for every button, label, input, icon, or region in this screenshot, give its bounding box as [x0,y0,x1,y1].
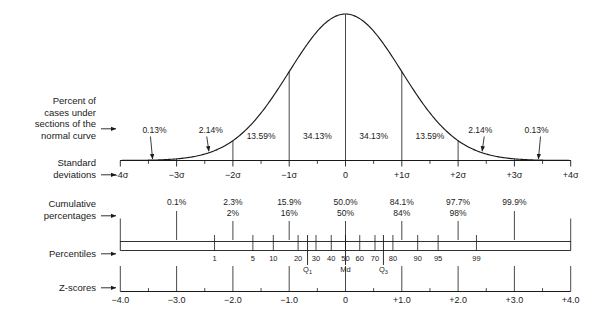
row-label-text: normal curve [41,130,96,141]
sd-axis-tick-label: 0 [343,170,348,180]
cumulative-exact-label: 0.1% [167,197,187,207]
z-axis-tick-label: −2.0 [224,295,242,305]
quartile-label: Q1 [303,265,312,275]
cumulative-rounded-label: 84% [393,208,410,218]
percentile-label: 20 [294,254,302,263]
cumulative-exact-label: 99.9% [502,197,527,207]
cumulative-exact-label: 2.3% [223,197,243,207]
standard-deviation-axis: −4σ−3σ−2σ−1σ0+1σ+2σ+3σ+4σ [112,161,579,181]
quartile-label: Q3 [379,265,388,275]
section-percent-label: 13.59% [416,131,445,141]
row-label-text: Z-scores [59,282,96,293]
cumulative-exact-label: 15.9% [277,197,302,207]
row-label-column: Percent ofcases undersections of thenorm… [35,95,116,293]
percentile-label: 10 [269,254,277,263]
z-axis-tick-label: +4.0 [562,295,580,305]
sd-axis-tick-label: −4σ [112,170,128,180]
section-percent-label: 0.13% [142,125,167,135]
cumulative-rounded-label: 16% [281,208,298,218]
section-percent-label: 13.59% [247,131,276,141]
z-axis-tick-label: 0 [343,295,348,305]
z-axis-tick-label: +1.0 [393,295,411,305]
cumulative-exact-label: 50.0% [333,197,358,207]
sd-axis-tick-label: +1σ [394,170,410,180]
row-label-text: Standard [57,157,96,168]
normal-curve-figure: Percent ofcases undersections of thenorm… [0,0,592,319]
cumulative-rounded-label: 2% [227,208,240,218]
row-label-text: percentages [44,210,97,221]
percentile-label: 5 [251,254,255,263]
cumulative-exact-label: 97.7% [446,197,471,207]
percentile-label: 30 [312,254,320,263]
row-label-percent-of-cases: Percent ofcases undersections of thenorm… [35,95,116,141]
sd-axis-tick-label: +3σ [506,170,522,180]
callout-arrow-icon [207,137,209,152]
section-percent-label: 2.14% [468,125,493,135]
section-percent-label: 34.13% [359,131,388,141]
row-label-text: Percent of [53,95,97,106]
z-axis-tick-label: +2.0 [449,295,467,305]
sd-axis-tick-label: +2σ [450,170,466,180]
z-axis-tick-label: +3.0 [506,295,524,305]
callout-arrow-icon [150,137,152,160]
row-label-text: cases under [44,107,96,118]
percentile-label: 99 [472,254,480,263]
row-label-text: sections of the [35,118,96,129]
row-label-text: Percentiles [49,248,96,259]
sd-axis-tick-label: +4σ [563,170,579,180]
row-label-cumulative-percentages: Cumulativepercentages [44,198,116,221]
percentile-label: 95 [434,254,442,263]
sd-axis-tick-label: −3σ [169,170,185,180]
curve-section-dividers [177,14,515,161]
cumulative-rounded-label: 50% [337,208,354,218]
percentile-label: 90 [414,254,422,263]
sd-axis-tick-label: −1σ [281,170,297,180]
percentile-label: 60 [356,254,364,263]
section-percent-label: 0.13% [524,125,549,135]
section-percent-label: 2.14% [199,125,224,135]
z-scores-row: −4.0−3.0−2.0−1.00+1.0+2.0+3.0+4.0 [111,266,579,305]
cumulative-rounded-label: 98% [450,208,467,218]
percentile-label: 70 [371,254,379,263]
row-label-text: Cumulative [48,198,96,209]
percentile-label: 80 [389,254,397,263]
row-label-percentiles: Percentiles [49,248,116,259]
percentile-label: 40 [327,254,335,263]
cumulative-exact-label: 84.1% [390,197,415,207]
z-axis-tick-label: −1.0 [280,295,298,305]
z-axis-tick-label: −3.0 [168,295,186,305]
sd-axis-tick-label: −2σ [225,170,241,180]
figure-canvas: Percent ofcases undersections of thenorm… [0,0,592,319]
callout-arrow-icon [538,137,540,160]
row-label-standard-deviations: Standarddeviations [53,157,116,180]
percentile-label: 1 [212,254,216,263]
row-label-z-scores: Z-scores [59,282,116,293]
row-label-text: deviations [53,169,96,180]
z-axis-tick-label: −4.0 [111,295,129,305]
callout-arrow-icon [482,137,484,152]
section-percent-label: 34.13% [303,131,332,141]
